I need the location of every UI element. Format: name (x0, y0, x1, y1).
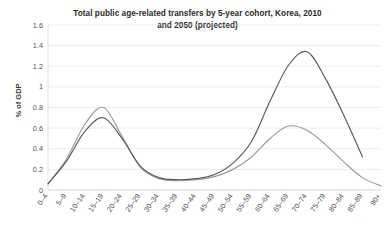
data-series-group (48, 51, 381, 185)
series-line-2050-projected- (48, 51, 363, 183)
x-tick-label: 80–84 (327, 192, 346, 214)
x-tick-label: 65–69 (271, 192, 290, 214)
x-tick-label: 50–54 (216, 192, 235, 214)
x-tick-label: 35–39 (160, 192, 179, 214)
x-tick-label: 45–49 (197, 192, 216, 214)
y-tick-labels-group: 00.20.40.60.811.21.41.6 (33, 21, 43, 195)
x-tick-label: 0–4 (35, 192, 49, 207)
chart-plot-area: 00.20.40.60.811.21.41.6 0–45–910–1415–19… (0, 0, 389, 234)
y-tick-label: 0.4 (33, 144, 43, 153)
x-tick-label: 60–64 (253, 192, 272, 214)
gridlines-group (48, 25, 381, 190)
y-tick-label: 0.8 (33, 103, 43, 112)
y-tick-label: 1.6 (33, 21, 43, 30)
x-tick-label: 85–89 (345, 192, 364, 214)
y-tick-label: 1 (39, 82, 43, 91)
x-tick-label: 40–44 (179, 192, 198, 214)
x-tick-label: 25–29 (123, 192, 142, 214)
x-tick-label: 15–19 (86, 192, 105, 214)
x-tick-label: 30–34 (142, 192, 161, 214)
x-tick-label: 70–74 (290, 192, 309, 214)
x-tick-label: 5–9 (54, 192, 68, 207)
y-tick-label: 1.4 (33, 41, 43, 50)
x-tick-label: 55–59 (234, 192, 253, 214)
x-tick-label: 20–24 (105, 192, 124, 214)
x-tick-label: 90+ (368, 192, 382, 207)
y-tick-label: 0.6 (33, 124, 43, 133)
y-tick-label: 1.2 (33, 62, 43, 71)
x-tick-label: 75–79 (308, 192, 327, 214)
x-tick-label: 10–14 (68, 192, 87, 214)
y-tick-label: 0.2 (33, 165, 43, 174)
x-tick-labels-group: 0–45–910–1415–1920–2425–2930–3435–3940–4… (35, 192, 382, 214)
chart-container: Total public age-related transfers by 5-… (0, 0, 389, 234)
